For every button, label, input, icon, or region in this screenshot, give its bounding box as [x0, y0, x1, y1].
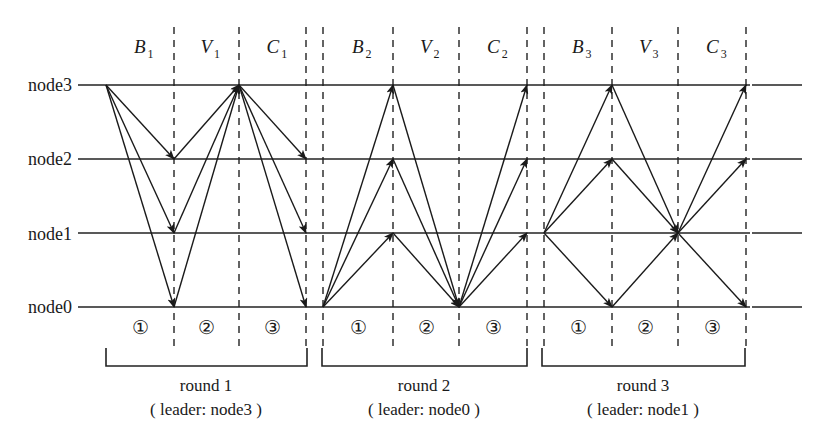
round-2-label: round 2 [398, 376, 450, 395]
phase-letter: V [201, 36, 215, 57]
phase-letter: C [487, 36, 500, 57]
message-arrow-r3-node0-to-node1 [612, 233, 678, 307]
phase-label-v2: V2 [420, 36, 440, 61]
phase-subscript: 3 [586, 47, 592, 61]
message-arrow-r1-node3-to-node0 [239, 85, 306, 307]
phase-letter: V [639, 36, 653, 57]
node-timelines [78, 85, 802, 307]
phase-subscript: 3 [721, 47, 727, 61]
phase-letter: B [134, 36, 146, 57]
consensus-round-diagram: node3 node2 node1 node0 B1V1C1B2V2C2B3V3… [0, 0, 823, 447]
step-marker-r3-3: ③ [704, 317, 721, 338]
message-arrow-r1-node2-to-node3 [174, 85, 239, 159]
round-2-bracket [322, 348, 527, 366]
step-marker-r3-2: ② [637, 317, 654, 338]
message-arrow-r1-node3-to-node0 [106, 85, 174, 307]
step-marker-r1-2: ② [198, 317, 215, 338]
step-marker-r2-1: ① [350, 317, 367, 338]
phase-subscript: 1 [281, 47, 287, 61]
phase-label-c3: C3 [706, 36, 727, 61]
phase-subscript: 2 [434, 47, 440, 61]
round-3-leader: ( leader: node1 ) [587, 400, 699, 419]
round-2-leader: ( leader: node0 ) [368, 400, 480, 419]
step-marker-r3-1: ① [570, 317, 587, 338]
round-1-bracket [106, 348, 307, 366]
step-markers: ①②③①②③①②③ [132, 317, 721, 338]
round-1-group: round 1 ( leader: node3 ) [106, 348, 307, 419]
round-3-group: round 3 ( leader: node1 ) [542, 348, 745, 419]
phase-subscript: 2 [502, 47, 508, 61]
phase-letter: V [420, 36, 434, 57]
message-arrow-r3-node1-to-node0 [678, 233, 746, 307]
message-arrow-r1-node0-to-node3 [174, 85, 239, 307]
message-arrow-r3-node1-to-node2 [678, 159, 746, 233]
message-arrow-r1-node3-to-node2 [106, 85, 174, 159]
phase-letter: B [352, 36, 364, 57]
message-arrow-r2-node1-to-node0 [393, 233, 459, 307]
round-3-label: round 3 [617, 376, 669, 395]
message-arrow-r3-node1-to-node2 [544, 159, 612, 233]
node-label-node0: node0 [28, 297, 72, 317]
message-arrow-r2-node0-to-node3 [323, 85, 393, 307]
phase-subscript: 3 [653, 47, 659, 61]
phase-subscript: 2 [366, 47, 372, 61]
message-arrow-r3-node2-to-node1 [612, 159, 678, 233]
node-label-node1: node1 [28, 224, 72, 244]
round-1-leader: ( leader: node3 ) [150, 400, 262, 419]
message-arrow-r2-node0-to-node1 [459, 233, 527, 307]
message-arrow-r1-node3-to-node2 [239, 85, 306, 159]
message-arrow-r2-node3-to-node0 [393, 85, 459, 307]
phase-letter: C [267, 36, 280, 57]
phase-subscript: 1 [214, 47, 220, 61]
node-label-node2: node2 [28, 149, 72, 169]
phase-label-c1: C1 [267, 36, 288, 61]
step-marker-r2-3: ③ [485, 317, 502, 338]
message-arrow-r3-node1-to-node0 [544, 233, 612, 307]
phase-letter: B [572, 36, 584, 57]
phase-labels: B1V1C1B2V2C2B3V3C3 [134, 36, 727, 61]
phase-label-b3: B3 [572, 36, 592, 61]
round-2-group: round 2 ( leader: node0 ) [322, 348, 527, 419]
phase-label-b2: B2 [352, 36, 372, 61]
phase-label-v1: V1 [201, 36, 221, 61]
phase-label-c2: C2 [487, 36, 508, 61]
step-marker-r2-2: ② [418, 317, 435, 338]
phase-label-b1: B1 [134, 36, 154, 61]
step-marker-r1-3: ③ [264, 317, 281, 338]
round-3-bracket [542, 348, 745, 366]
phase-letter: C [706, 36, 719, 57]
phase-label-v3: V3 [639, 36, 659, 61]
message-arrows [106, 85, 746, 307]
node-labels: node3 node2 node1 node0 [28, 75, 72, 317]
round-1-label: round 1 [180, 376, 232, 395]
node-label-node3: node3 [28, 75, 72, 95]
message-arrow-r2-node0-to-node3 [459, 85, 527, 307]
phase-subscript: 1 [148, 47, 154, 61]
step-marker-r1-1: ① [132, 317, 149, 338]
message-arrow-r2-node0-to-node1 [323, 233, 393, 307]
